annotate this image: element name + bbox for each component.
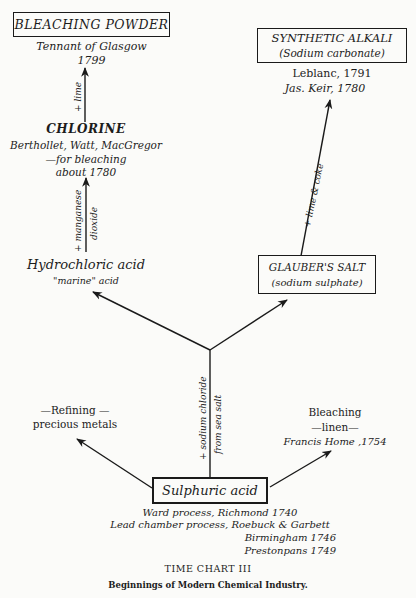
chlorine-detail-3: about 1780 <box>10 166 162 178</box>
synthetic-alkali-title: SYNTHETIC ALKALI <box>258 31 406 46</box>
bleaching-linen-line-2: —linen— <box>280 421 390 433</box>
bleaching-powder-detail-2: 1799 <box>13 54 170 67</box>
bleaching-powder-detail-1: Tennant of Glasgow <box>13 40 170 53</box>
sulphuric-acid-detail-3: Birmingham 1746 <box>240 532 336 543</box>
edge-label-manganese: + manganese <box>73 190 83 252</box>
bleaching-linen-line-1: Bleaching <box>280 406 390 418</box>
arrow-sulphuric-to-refining <box>77 439 152 488</box>
caption-subtitle: Beginnings of Modern Chemical Industry. <box>0 580 416 590</box>
synthetic-alkali-detail-1: Leblanc, 1791 <box>257 67 407 80</box>
bleaching-powder-title: BLEACHING POWDER <box>14 17 168 32</box>
node-sulphuric-acid: Sulphuric acid <box>152 477 268 504</box>
synthetic-alkali-subtitle: (Sodium carbonate) <box>258 46 406 60</box>
sulphuric-acid-detail-2: Lead chamber process, Roebuck & Garbett <box>100 519 340 530</box>
caption-title: TIME CHART III <box>0 563 416 574</box>
bleaching-linen-line-3: Francis Home ,1754 <box>270 436 400 447</box>
arrow-junction-to-hcl <box>93 292 210 350</box>
sulphuric-acid-detail-1: Ward process, Richmond 1740 <box>140 507 300 518</box>
chlorine-detail-1: Berthollet, Watt, MacGregor <box>0 139 172 151</box>
node-glaubers-salt: GLAUBER'S SALT (sodium sulphate) <box>258 255 376 294</box>
sulphuric-acid-detail-4: Prestonpans 1749 <box>240 545 336 556</box>
hydrochloric-acid-title: Hydrochloric acid <box>10 257 162 272</box>
sulphuric-acid-title: Sulphuric acid <box>162 483 258 498</box>
refining-line-2: precious metals <box>20 418 130 430</box>
edge-label-lime: + lime <box>73 82 83 112</box>
glaubers-salt-title: GLAUBER'S SALT <box>259 259 375 275</box>
edge-label-sodium-chloride: + sodium chloride <box>198 376 208 460</box>
node-synthetic-alkali: SYNTHETIC ALKALI (Sodium carbonate) <box>257 28 407 63</box>
chlorine-detail-2: —for bleaching <box>10 153 162 165</box>
chlorine-title: CHLORINE <box>20 122 152 136</box>
node-bleaching-powder: BLEACHING POWDER <box>13 12 170 37</box>
arrow-sulphuric-to-linen <box>270 451 331 487</box>
glaubers-salt-subtitle: (sodium sulphate) <box>259 275 375 291</box>
arrow-junction-to-glauber <box>210 300 287 350</box>
synthetic-alkali-detail-2: Jas. Keir, 1780 <box>250 82 400 95</box>
edge-label-sea-salt: from sea salt <box>213 395 223 454</box>
edge-label-dioxide: dioxide <box>89 207 99 240</box>
hydrochloric-acid-subtitle: "marine" acid <box>10 275 162 286</box>
refining-line-1: —Refining — <box>20 404 130 416</box>
